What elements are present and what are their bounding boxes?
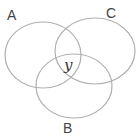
set-b-label: B bbox=[63, 121, 72, 135]
venn-diagram: A C B y bbox=[0, 0, 138, 140]
intersection-label: y bbox=[64, 58, 72, 73]
set-a-ellipse bbox=[5, 22, 81, 88]
set-b-ellipse bbox=[36, 54, 112, 118]
set-c-ellipse bbox=[55, 18, 135, 84]
set-c-label: C bbox=[106, 6, 116, 20]
set-a-label: A bbox=[7, 8, 16, 22]
